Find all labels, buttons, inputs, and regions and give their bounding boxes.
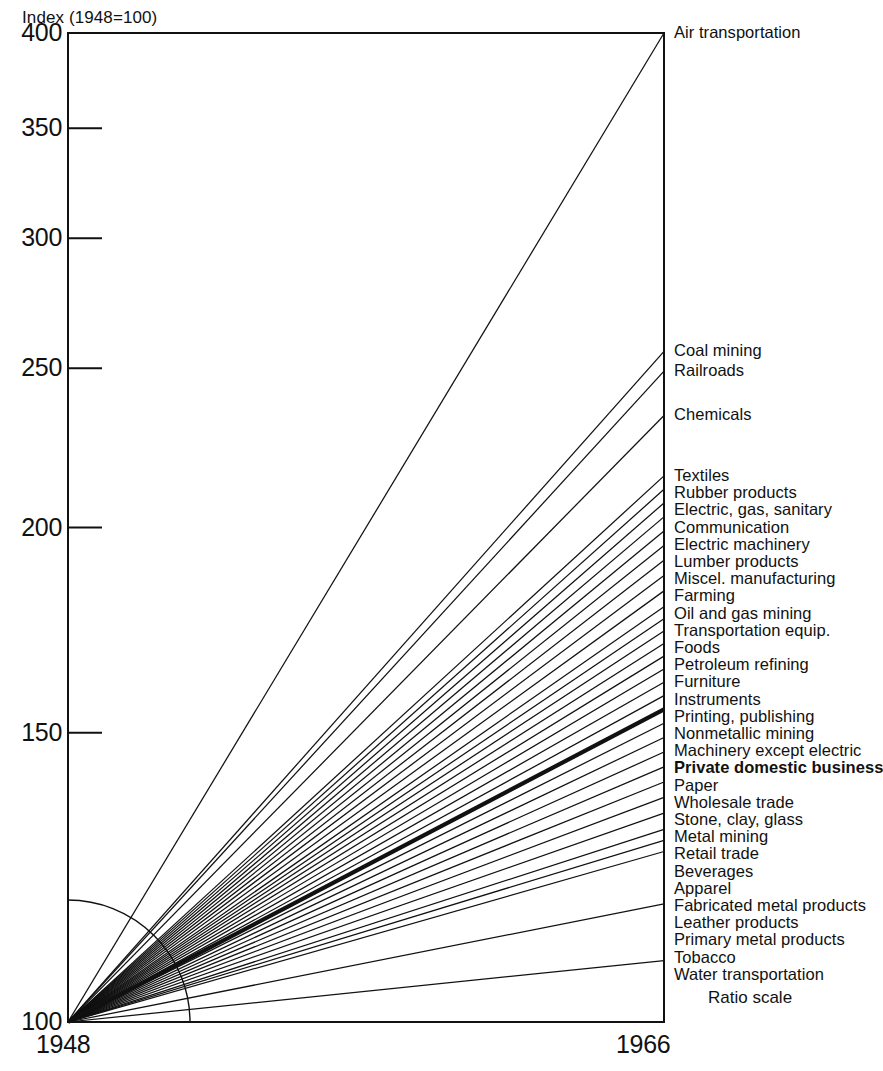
series-endpoint-label: Petroleum refining — [674, 656, 809, 673]
ratio-scale-note: Ratio scale — [708, 988, 792, 1008]
series-line — [68, 476, 664, 1022]
series-endpoint-label: Paper — [674, 777, 718, 794]
series-endpoint-label: Tobacco — [674, 949, 736, 966]
y-tick-label: 350 — [21, 113, 62, 142]
series-line — [68, 752, 664, 1022]
series-line — [68, 782, 664, 1022]
series-line — [68, 851, 664, 1022]
series-line — [68, 546, 664, 1022]
series-endpoint-label: Miscel. manufacturing — [674, 570, 836, 587]
series-endpoint-label: Textiles — [674, 467, 729, 484]
y-tick-label: 200 — [21, 513, 62, 542]
series-line — [68, 669, 664, 1022]
series-line — [68, 517, 664, 1022]
series-line — [68, 531, 664, 1022]
series-endpoint-label: Railroads — [674, 362, 744, 379]
series-endpoint-label: Communication — [674, 519, 789, 536]
series-line — [68, 575, 664, 1022]
series-endpoint-label: Farming — [674, 587, 735, 604]
series-line — [68, 619, 664, 1022]
series-endpoint-label: Water transportation — [674, 966, 824, 983]
series-endpoint-label: Metal mining — [674, 828, 768, 845]
series-line — [68, 591, 664, 1022]
series-endpoint-label: Stone, clay, glass — [674, 811, 803, 828]
series-line — [68, 738, 664, 1022]
series-endpoint-label: Rubber products — [674, 484, 797, 501]
series-line — [68, 371, 664, 1022]
series-endpoint-label: Beverages — [674, 863, 753, 880]
series-endpoint-label: Foods — [674, 639, 720, 656]
y-tick-label: 250 — [21, 353, 62, 382]
series-endpoint-label: Retail trade — [674, 845, 759, 862]
y-tick-label: 150 — [21, 718, 62, 747]
series-endpoint-label: Electric, gas, sanitary — [674, 501, 832, 518]
series-endpoint-label: Oil and gas mining — [674, 605, 812, 622]
y-tick-marks — [68, 128, 102, 732]
series-line — [68, 503, 664, 1022]
series-endpoint-label: Instruments — [674, 691, 761, 708]
series-line — [68, 643, 664, 1022]
series-endpoint-label: Coal mining — [674, 342, 762, 359]
y-tick-label: 400 — [21, 18, 62, 47]
series-line — [68, 767, 664, 1022]
series-endpoint-label: Air transportation — [674, 24, 801, 41]
series-endpoint-label: Apparel — [674, 880, 731, 897]
series-endpoint-label: Electric machinery — [674, 536, 810, 553]
x-axis-start-label: 1948 — [36, 1030, 90, 1059]
series-line — [68, 33, 664, 1022]
series-endpoint-label: Wholesale trade — [674, 794, 794, 811]
series-endpoint-label: Machinery except electric — [674, 742, 861, 759]
x-axis-end-label: 1966 — [616, 1030, 670, 1059]
series-endpoint-label: Transportation equip. — [674, 622, 830, 639]
series-endpoint-label: Primary metal products — [674, 931, 845, 948]
series-endpoint-label: Furniture — [674, 673, 740, 690]
series-line — [68, 560, 664, 1022]
series-line — [68, 682, 664, 1022]
series-endpoint-label: Printing, publishing — [674, 708, 814, 725]
series-endpoint-label: Leather products — [674, 914, 799, 931]
y-tick-label: 300 — [21, 223, 62, 252]
series-endpoint-label: Chemicals — [674, 406, 751, 423]
series-line-group — [68, 33, 664, 1022]
series-endpoint-label: Lumber products — [674, 553, 799, 570]
series-endpoint-label: Nonmetallic mining — [674, 725, 814, 742]
series-endpoint-label: Fabricated metal products — [674, 897, 866, 914]
series-line — [68, 607, 664, 1022]
series-endpoint-label: Private domestic business — [674, 759, 883, 776]
series-line — [68, 656, 664, 1022]
series-line — [68, 797, 664, 1022]
